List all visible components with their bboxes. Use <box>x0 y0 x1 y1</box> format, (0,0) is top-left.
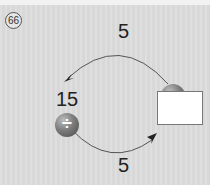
start-value: 15 <box>56 88 78 111</box>
bottom-operand: 5 <box>118 154 129 177</box>
arrowhead-top <box>64 74 74 82</box>
divide-icon: ÷ <box>55 113 79 137</box>
answer-box[interactable] <box>157 91 203 125</box>
top-operand: 5 <box>118 20 129 43</box>
